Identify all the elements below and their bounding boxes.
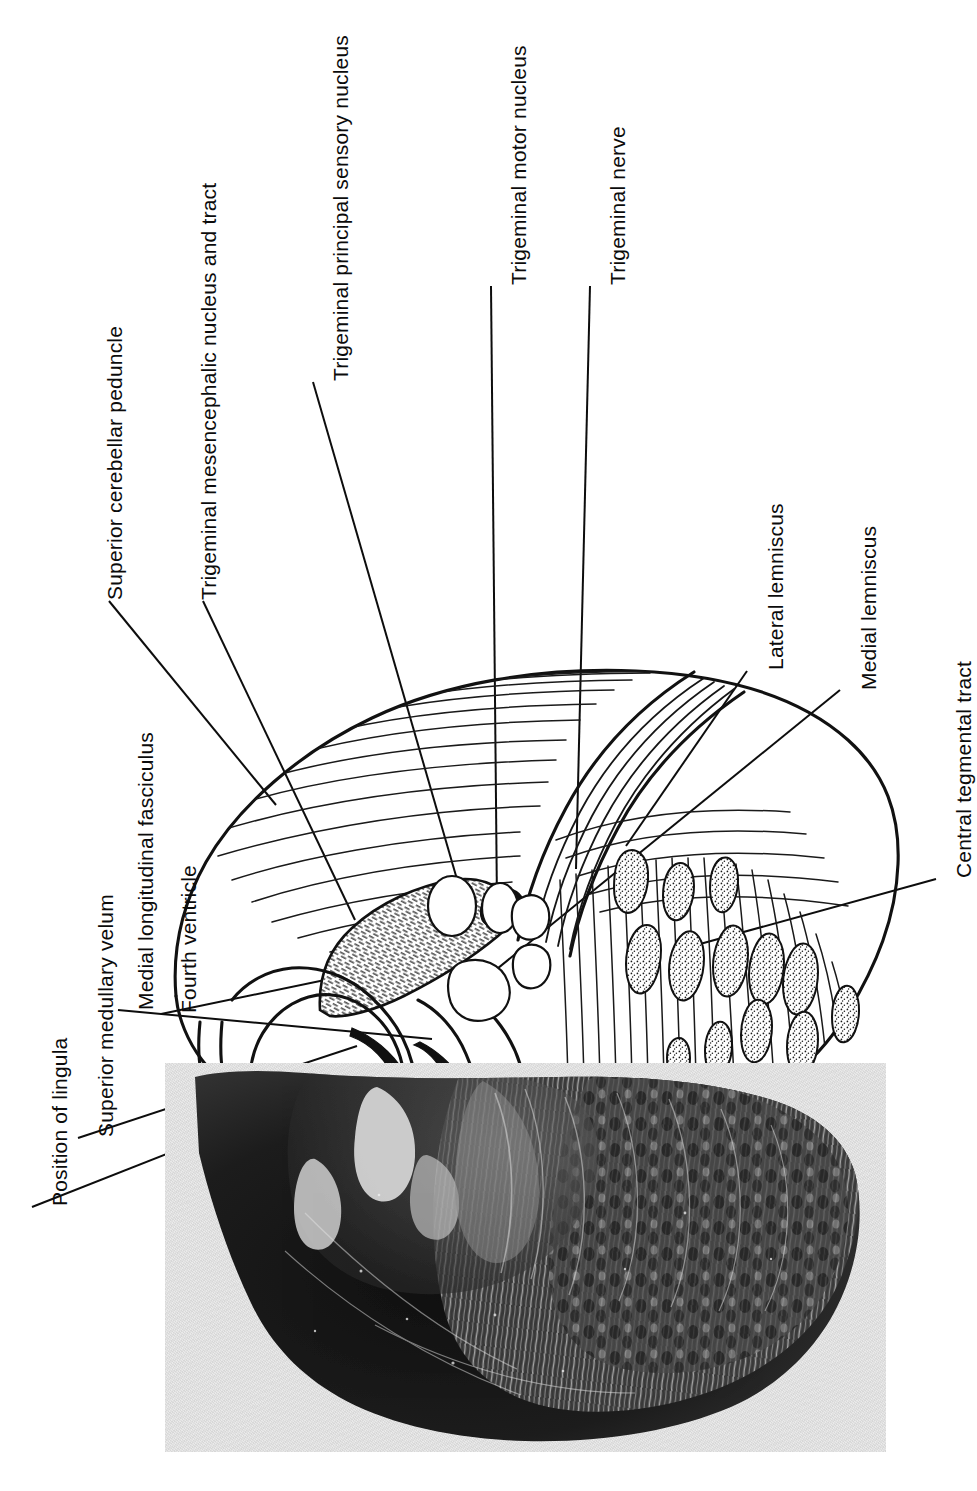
medial-longitudinal-fasciculus-outline [448, 960, 510, 1021]
trigeminal-mesencephalic-mass [320, 879, 525, 1016]
trigeminal-motor-nucleus-outline [482, 883, 518, 933]
leader-central-tegmental-tract [700, 879, 936, 944]
leader-trigeminal-mesencephalic [203, 601, 355, 920]
tegmentum-striations [216, 671, 668, 952]
pontine-nuclei-islands [614, 850, 859, 1080]
leader-trigeminal-nerve [576, 286, 590, 869]
label-superior-medullary-velum: Superior medullary velum [95, 894, 116, 1137]
label-central-tegmental-tract: Central tegmental tract [953, 661, 974, 878]
label-fourth-ventricle: Fourth ventricle [178, 865, 199, 1013]
label-trigeminal-motor-nucleus: Trigeminal motor nucleus [508, 45, 529, 285]
label-medial-longitudinal-fasciculus: Medial longitudinal fasciculus [135, 732, 156, 1010]
leader-lateral-lemniscus [626, 671, 747, 846]
label-position-of-lingula: Position of lingula [49, 1038, 70, 1206]
trigeminal-principal-sensory-outline [428, 876, 476, 936]
nuclei-outlines [428, 876, 550, 1021]
photomicrograph-tissue [165, 1063, 886, 1452]
label-medial-lemniscus: Medial lemniscus [858, 526, 879, 690]
label-trigeminal-nerve: Trigeminal nerve [607, 126, 628, 285]
label-superior-cerebellar-peduncle: Superior cerebellar peduncle [104, 326, 125, 600]
leader-trigeminal-principal-sensory [313, 382, 463, 900]
leader-medial-longitudinal-fasciculus [118, 1010, 432, 1039]
label-trigeminal-mesencephalic-nucleus-and-tract: Trigeminal mesencephalic nucleus and tra… [198, 183, 219, 600]
label-lateral-lemniscus: Lateral lemniscus [765, 503, 786, 670]
label-trigeminal-principal-sensory-nucleus: Trigeminal principal sensory nucleus [330, 35, 351, 381]
figure-plate: Superior cerebellar peduncle Trigeminal … [0, 0, 977, 1491]
superior-cerebellar-peduncle-band [518, 672, 744, 956]
photomicrograph-panel [165, 1063, 886, 1452]
pontine-fiber-bundles [556, 810, 854, 1080]
leader-trigeminal-motor-nucleus [491, 286, 497, 905]
leader-medial-lemniscus [476, 690, 840, 986]
pons-outline [175, 670, 898, 1078]
